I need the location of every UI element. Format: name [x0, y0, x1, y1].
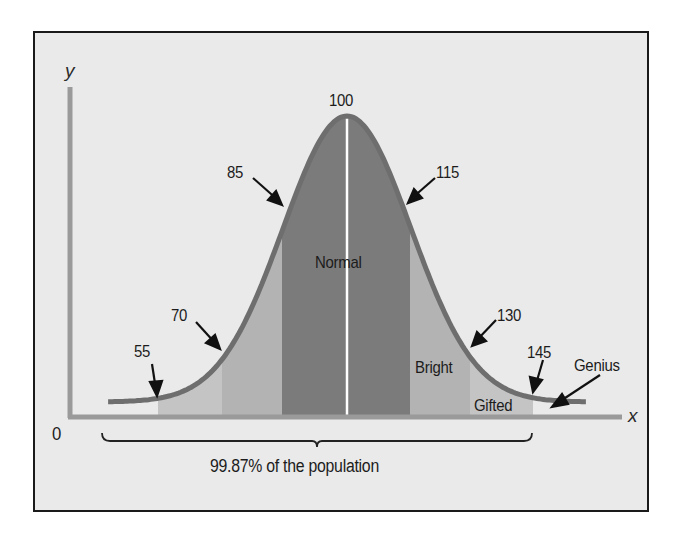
band-label-gifted: Gifted: [474, 396, 512, 416]
population-bracket: [102, 433, 532, 447]
marker-115: 115: [436, 163, 459, 183]
marker-100: 100: [329, 91, 353, 111]
x-axis-label: x: [628, 405, 638, 427]
band-label-normal: Normal: [315, 253, 362, 273]
arrow-55-icon: [150, 381, 162, 396]
arrow-145-icon: [530, 377, 542, 392]
population-label: 99.87% of the population: [210, 456, 379, 477]
marker-55: 55: [134, 342, 150, 362]
band-label-genius: Genius: [574, 356, 620, 376]
marker-85: 85: [227, 163, 243, 183]
marker-145: 145: [527, 343, 551, 363]
band-label-bright: Bright: [415, 358, 452, 378]
arrow-70-icon: [206, 335, 220, 349]
marker-70: 70: [171, 306, 187, 326]
y-axis-label: y: [65, 60, 75, 82]
origin-label: 0: [52, 423, 61, 445]
marker-130: 130: [497, 306, 521, 326]
